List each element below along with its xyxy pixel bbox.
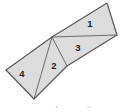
figure-root: 1 3 2 4 Area of parallelogram — [0, 0, 123, 112]
triangle-3-label: 3 — [75, 42, 80, 53]
triangle-1-face — [52, 3, 117, 37]
piece-faces — [6, 3, 117, 99]
figure-caption: Area of parallelogram — [26, 106, 105, 108]
caption-strip: Area of parallelogram — [0, 106, 123, 112]
triangle-1-label: 1 — [87, 18, 93, 29]
tangram-diagram: 1 3 2 4 — [0, 0, 123, 112]
triangle-4-label: 4 — [19, 68, 25, 79]
triangle-2-label: 2 — [51, 60, 56, 71]
